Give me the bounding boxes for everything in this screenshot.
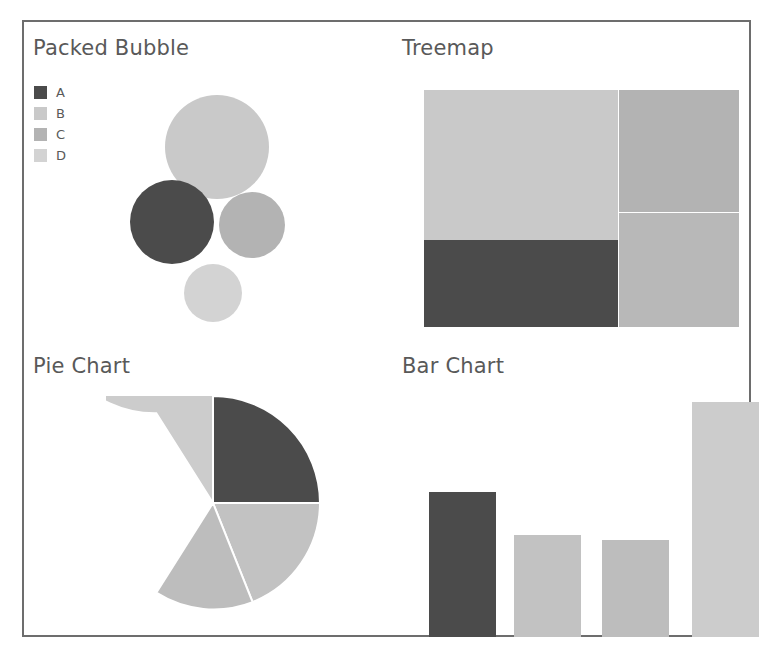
bubble-c[interactable]	[219, 192, 285, 258]
pie-svg	[106, 396, 320, 610]
bar-d[interactable]	[602, 540, 669, 637]
treemap-cell-d[interactable]	[619, 213, 739, 327]
bar-a[interactable]	[429, 492, 496, 637]
figure-frame: Packed Bubble A B C D	[22, 20, 751, 637]
bubble-d[interactable]	[184, 264, 242, 322]
pie-chart-plot	[106, 396, 320, 610]
panel-bar: Bar Chart	[396, 334, 753, 639]
panel-treemap: Treemap	[396, 22, 753, 334]
panel-pie: Pie Chart	[24, 334, 396, 639]
treemap-cell-b[interactable]	[424, 90, 618, 240]
bar-chart-plot	[429, 384, 759, 637]
treemap-cell-a[interactable]	[424, 240, 618, 327]
bar-chart-title: Bar Chart	[402, 356, 504, 377]
pie-slice-a[interactable]	[213, 396, 320, 503]
bubble-a[interactable]	[130, 180, 214, 264]
treemap-cell-c[interactable]	[619, 90, 739, 212]
treemap-title: Treemap	[402, 38, 494, 59]
pie-chart-title: Pie Chart	[33, 356, 130, 377]
treemap-plot	[424, 90, 739, 327]
panel-packed-bubble: Packed Bubble A B C D	[24, 22, 396, 334]
packed-bubble-plot	[24, 22, 396, 334]
bar-c[interactable]	[514, 535, 581, 637]
bar-b[interactable]	[692, 402, 759, 637]
